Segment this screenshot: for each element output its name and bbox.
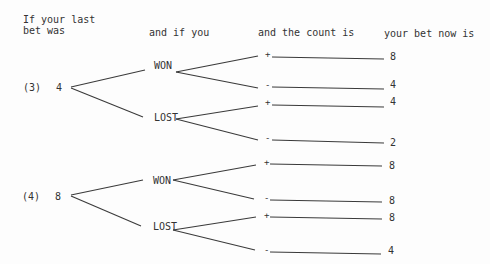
count-plus: + [264,210,269,221]
count-minus: - [264,193,269,204]
tree-label: (4) [22,191,40,202]
betting-decision-tree: If your last bet was and if you and the … [0,0,490,264]
outcome-lost: LOST [154,112,178,123]
bet-now-value: 4 [388,245,394,256]
count-plus: + [265,97,270,108]
last-bet-value: 8 [55,191,61,202]
bet-now-value: 2 [390,137,396,148]
outcome-won: WON [154,60,172,71]
count-plus: + [264,157,269,168]
bet-now-value: 4 [390,96,396,107]
count-minus: - [264,245,269,256]
count-plus: + [265,49,270,60]
bet-now-value: 8 [389,160,395,171]
outcome-won: WON [153,175,171,186]
tree-label: (3) [23,82,41,93]
tree-lines [0,0,490,264]
outcome-lost: LOST [153,221,177,232]
count-minus: - [265,80,270,91]
bet-now-value: 8 [389,212,395,223]
bet-now-value: 8 [389,195,395,206]
last-bet-value: 4 [56,82,62,93]
bet-now-value: 8 [390,51,396,62]
count-minus: - [265,133,270,144]
bet-now-value: 4 [390,79,396,90]
